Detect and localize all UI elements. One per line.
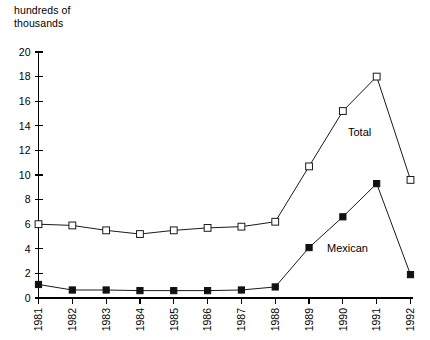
data-point-total-1989 [306, 163, 313, 170]
data-point-mexican-1985 [171, 288, 177, 294]
data-point-mexican-1983 [103, 287, 109, 293]
y-tick-label: 16 [19, 95, 31, 107]
y-tick-label: 18 [19, 70, 31, 82]
data-point-mexican-1984 [137, 288, 143, 294]
data-point-total-1992 [407, 177, 414, 184]
y-axis: 02468101214161820 [19, 46, 43, 304]
y-tick-label: 8 [25, 193, 31, 205]
y-tick-label: 2 [25, 267, 31, 279]
x-tick-label: 1989 [303, 308, 315, 332]
data-series-group [35, 73, 414, 294]
series-annotations: TotalMexican [327, 126, 371, 254]
y-tick-label: 6 [25, 218, 31, 230]
data-point-mexican-1981 [35, 281, 41, 287]
series-line-total [39, 77, 411, 234]
data-point-mexican-1988 [272, 284, 278, 290]
y-tick-label: 20 [19, 46, 31, 58]
data-point-total-1988 [272, 218, 279, 225]
x-tick-label: 1990 [337, 308, 349, 332]
x-axis: 1981198219831984198519861987198819891990… [32, 298, 416, 331]
y-tick-label: 4 [25, 243, 31, 255]
data-point-total-1986 [204, 224, 211, 231]
data-point-total-1985 [170, 227, 177, 234]
data-point-total-1982 [69, 222, 76, 229]
y-tick-label: 12 [19, 144, 31, 156]
x-tick-label: 1983 [100, 308, 112, 332]
y-tick-label: 14 [19, 120, 31, 132]
x-tick-label: 1985 [168, 308, 180, 332]
y-tick-label: 0 [25, 292, 31, 304]
x-tick-label: 1982 [66, 308, 78, 332]
x-tick-label: 1988 [269, 308, 281, 332]
x-tick-label: 1986 [201, 308, 213, 332]
data-point-mexican-1990 [340, 214, 346, 220]
x-tick-label: 1981 [32, 308, 44, 332]
x-tick-label: 1991 [370, 308, 382, 332]
data-point-total-1991 [373, 73, 380, 80]
data-point-total-1990 [339, 108, 346, 115]
data-point-mexican-1982 [69, 287, 75, 293]
series-line-mexican [39, 184, 411, 291]
data-point-mexican-1992 [407, 272, 413, 278]
series-label-total: Total [348, 126, 371, 138]
x-tick-label: 1984 [134, 308, 146, 332]
data-point-total-1983 [103, 227, 110, 234]
x-tick-label: 1987 [235, 308, 247, 332]
series-label-mexican: Mexican [327, 242, 368, 254]
data-point-total-1981 [35, 221, 42, 228]
data-point-mexican-1987 [238, 287, 244, 293]
line-chart-plot: 02468101214161820 1981198219831984198519… [0, 0, 430, 340]
data-point-mexican-1986 [204, 288, 210, 294]
data-point-mexican-1991 [374, 181, 380, 187]
chart-container: hundreds ofthousands 02468101214161820 1… [0, 0, 430, 340]
data-point-mexican-1989 [306, 244, 312, 250]
x-tick-label: 1992 [404, 308, 416, 332]
data-point-total-1984 [137, 231, 144, 238]
y-tick-label: 10 [19, 169, 31, 181]
data-point-total-1987 [238, 223, 245, 230]
